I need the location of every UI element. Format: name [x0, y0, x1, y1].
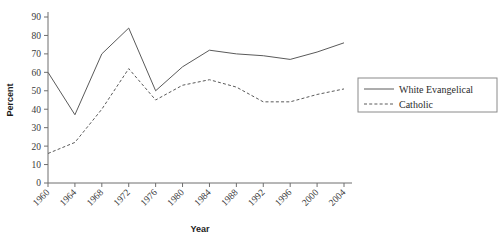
- y-tick-label: 70: [32, 49, 42, 59]
- legend-label-catholic: Catholic: [399, 99, 433, 110]
- y-tick-label: 20: [32, 142, 42, 152]
- y-tick-label: 50: [32, 86, 42, 96]
- y-tick-label: 90: [32, 12, 42, 22]
- x-tick-label: 1980: [165, 187, 186, 208]
- x-axis-ticks: 1960196419681972197619801984198819921996…: [31, 183, 348, 208]
- x-tick-label: 1964: [58, 187, 79, 208]
- y-tick-label: 0: [36, 178, 41, 188]
- x-tick-label: 1988: [219, 187, 240, 208]
- y-tick-label: 10: [32, 160, 42, 170]
- x-tick-label: 2000: [300, 187, 321, 208]
- x-tick-label: 1960: [31, 187, 52, 208]
- x-tick-label: 2004: [327, 187, 348, 208]
- x-tick-label: 1976: [139, 187, 160, 208]
- x-tick-label: 1996: [273, 187, 294, 208]
- line-chart: 0102030405060708090 19601964196819721976…: [0, 0, 501, 244]
- data-series-group: [48, 28, 344, 153]
- y-tick-label: 30: [32, 123, 42, 133]
- x-tick-label: 1992: [246, 187, 267, 208]
- y-tick-label: 40: [32, 105, 42, 115]
- x-axis-title: Year: [190, 224, 210, 234]
- chart-container: 0102030405060708090 19601964196819721976…: [0, 0, 501, 244]
- series-line-catholic: [48, 69, 344, 154]
- x-tick-label: 1972: [112, 187, 133, 208]
- x-tick-label: 1968: [85, 187, 106, 208]
- y-tick-label: 80: [32, 31, 42, 41]
- y-axis-title: Percent: [5, 83, 15, 116]
- x-tick-label: 1984: [192, 187, 213, 208]
- series-line-white-evangelical: [48, 28, 344, 115]
- y-axis-ticks: 0102030405060708090: [32, 12, 49, 188]
- chart-legend: White EvangelicalCatholic: [358, 78, 497, 112]
- legend-label-white-evangelical: White Evangelical: [399, 84, 473, 95]
- y-tick-label: 60: [32, 68, 42, 78]
